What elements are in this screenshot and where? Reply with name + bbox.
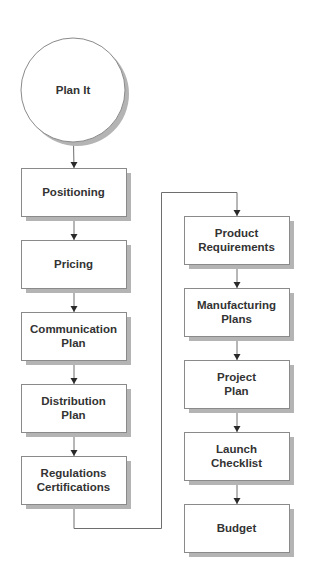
project-plan-label-line: Plan [224,385,248,397]
arrowhead-icon [234,210,241,216]
manufacturing-plans-label-line: Plans [221,313,252,325]
arrowhead-icon [234,426,241,432]
positioning-label-line: Positioning [42,186,105,198]
arrowhead-icon [71,234,78,240]
node-launch-checklist: LaunchChecklist [185,433,295,486]
node-plan-it: Plan It [21,38,129,146]
product-requirements-label-line: Product [215,227,259,239]
arrowhead-icon [71,306,78,312]
manufacturing-plans-label-line: Manufacturing [197,299,276,311]
communication-plan-label-line: Plan [61,337,85,349]
distribution-plan-label-line: Distribution [41,395,106,407]
node-product-requirements: ProductRequirements [185,217,295,270]
arrowhead-icon [71,378,78,384]
node-regulations-certifications: RegulationsCertifications [22,457,132,510]
arrowhead-icon [71,450,78,456]
node-positioning: Positioning [22,169,132,222]
node-communication-plan: CommunicationPlan [22,313,132,366]
arrowhead-icon [234,498,241,504]
node-project-plan: ProjectPlan [185,361,295,414]
node-pricing: Pricing [22,241,132,294]
launch-checklist-label-line: Launch [216,443,257,455]
arrowhead-icon [71,162,78,168]
node-manufacturing-plans: ManufacturingPlans [185,289,295,342]
launch-checklist-label-line: Checklist [211,457,262,469]
product-requirements-label-line: Requirements [198,241,275,253]
node-budget: Budget [185,505,295,558]
regulations-certifications-label-line: Regulations [41,467,107,479]
node-distribution-plan: DistributionPlan [22,385,132,438]
budget-label-line: Budget [217,522,257,534]
flowchart: Plan ItPositioningPricingCommunicationPl… [0,0,316,587]
arrowhead-icon [234,282,241,288]
pricing-label-line: Pricing [54,258,93,270]
nodes: Plan ItPositioningPricingCommunicationPl… [21,38,294,557]
communication-plan-label-line: Communication [30,323,117,335]
arrowhead-icon [234,354,241,360]
distribution-plan-label-line: Plan [61,409,85,421]
regulations-certifications-label-line: Certifications [37,481,111,493]
project-plan-label-line: Project [217,371,256,383]
plan-it-label-line: Plan It [56,84,91,96]
